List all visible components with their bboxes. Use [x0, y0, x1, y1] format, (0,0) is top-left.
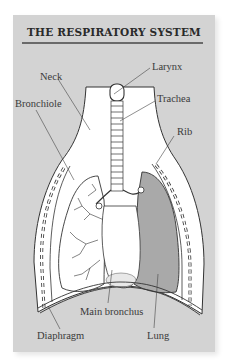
label-neck: Neck	[40, 72, 62, 83]
trachea-rings	[111, 101, 123, 191]
label-bronchiole: Bronchiole	[15, 99, 62, 110]
label-trachea: Trachea	[157, 94, 190, 105]
label-lung: Lung	[147, 331, 169, 342]
label-main-bronchus: Main bronchus	[80, 307, 143, 318]
larynx-shape	[110, 84, 124, 101]
label-larynx: Larynx	[152, 62, 182, 73]
label-rib: Rib	[177, 127, 192, 138]
label-diaphragm: Diaphragm	[37, 331, 84, 342]
